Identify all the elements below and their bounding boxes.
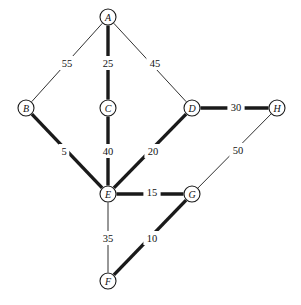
node-label-h: H xyxy=(272,103,281,114)
graph-svg-canvas: 552545540203050153510 ABCDHEGF xyxy=(0,0,301,305)
edge-weight-c-e: 40 xyxy=(103,146,114,157)
edge-weight-e-g: 15 xyxy=(147,187,158,198)
edge-weight-h-g: 50 xyxy=(233,145,244,156)
node-label-g: G xyxy=(188,189,195,200)
node-e[interactable]: E xyxy=(100,186,116,202)
node-c[interactable]: C xyxy=(100,100,116,116)
node-label-a: A xyxy=(104,12,112,23)
node-label-d: D xyxy=(187,103,196,114)
node-a[interactable]: A xyxy=(100,9,116,25)
node-label-c: C xyxy=(105,103,112,114)
edge-weight-a-c: 25 xyxy=(103,58,114,69)
edge-weight-b-e: 5 xyxy=(61,146,66,157)
node-label-f: F xyxy=(104,276,112,287)
edge-weight-d-e: 20 xyxy=(148,146,159,157)
graph-diagram: 552545540203050153510 ABCDHEGF xyxy=(0,0,301,305)
edge-weight-e-f: 35 xyxy=(103,233,114,244)
edge-weight-f-g: 10 xyxy=(147,233,158,244)
edge-weight-a-d: 45 xyxy=(150,58,161,69)
edge-weight-a-b: 55 xyxy=(62,58,73,69)
node-h[interactable]: H xyxy=(269,100,285,116)
node-f[interactable]: F xyxy=(100,273,116,289)
edge-weights-layer: 552545540203050153510 xyxy=(58,56,246,245)
node-label-e: E xyxy=(104,189,111,200)
node-g[interactable]: G xyxy=(184,186,200,202)
edge-weight-d-h: 30 xyxy=(231,102,242,113)
node-d[interactable]: D xyxy=(184,100,200,116)
node-b[interactable]: B xyxy=(18,100,34,116)
node-label-b: B xyxy=(23,103,29,114)
